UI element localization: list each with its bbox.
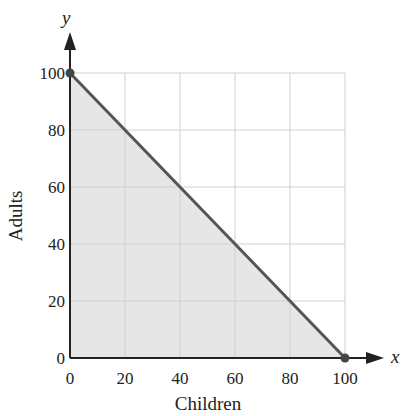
- x-axis-arrow-icon: [366, 352, 384, 364]
- y-axis-title: Adults: [5, 191, 26, 242]
- point-100-0: [341, 354, 350, 363]
- x-axis-title: Children: [175, 393, 242, 414]
- y-axis-variable: y: [60, 7, 71, 28]
- chart: y x 0 20 40 60 80 100 0 20 40 60 80 100 …: [0, 0, 403, 416]
- svg-text:20: 20: [117, 369, 134, 388]
- svg-text:0: 0: [57, 349, 66, 368]
- point-0-100: [66, 69, 75, 78]
- svg-text:40: 40: [172, 369, 189, 388]
- svg-text:40: 40: [48, 235, 65, 254]
- svg-text:0: 0: [66, 369, 75, 388]
- svg-text:60: 60: [48, 178, 65, 197]
- svg-text:60: 60: [227, 369, 244, 388]
- svg-text:20: 20: [48, 292, 65, 311]
- y-axis-arrow-icon: [64, 32, 76, 50]
- svg-text:80: 80: [282, 369, 299, 388]
- y-tick-labels: 0 20 40 60 80 100: [40, 64, 66, 368]
- x-tick-labels: 0 20 40 60 80 100: [66, 369, 358, 388]
- x-axis-variable: x: [390, 346, 400, 367]
- svg-text:80: 80: [48, 121, 65, 140]
- svg-text:100: 100: [332, 369, 358, 388]
- svg-text:100: 100: [40, 64, 66, 83]
